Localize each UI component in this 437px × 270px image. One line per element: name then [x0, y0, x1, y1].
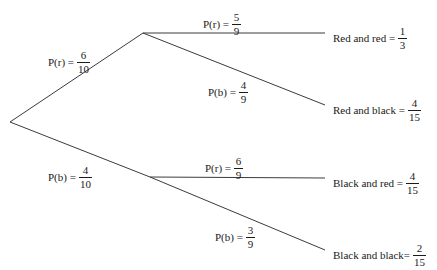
branch-label-black-black: P(b) = 3 9	[215, 225, 255, 250]
fraction-denominator: 10	[79, 179, 92, 190]
fraction-denominator: 9	[247, 239, 255, 250]
outcome-label-red-and-black-text: Red and black =	[333, 105, 405, 116]
fraction-numerator: 1	[399, 26, 407, 37]
outcome-label-black-and-black: Black and black= 2 15	[333, 243, 426, 268]
fraction-numerator: 5	[233, 12, 241, 23]
fraction-denominator: 15	[408, 112, 421, 123]
branch-label-red-red: P(r) = 5 9	[203, 12, 241, 37]
branch-label-black-red-text: P(r) =	[205, 163, 231, 174]
branch-label-black-red: P(r) = 6 9	[205, 156, 243, 181]
fraction-denominator: 9	[235, 170, 243, 181]
branch-label-black-black-text: P(b) =	[215, 232, 243, 243]
fraction-denominator: 9	[233, 26, 241, 37]
outcome-fraction-red-and-black: 4 15	[408, 98, 421, 123]
branch-label-root-black-text: P(b) =	[48, 172, 76, 183]
fraction-numerator: 4	[409, 171, 417, 182]
branch-label-red-black-text: P(b) =	[208, 87, 236, 98]
fraction-numerator: 4	[240, 80, 248, 91]
outcome-label-red-and-red-text: Red and red =	[333, 33, 395, 44]
probability-tree-diagram: P(r) = 6 10 P(b) = 4 10 P(r) = 5 9 P(b) …	[0, 0, 437, 270]
branch-fraction-red-black: 4 9	[239, 80, 248, 105]
branch-fraction-root-black: 4 10	[79, 165, 92, 190]
fraction-denominator: 3	[399, 40, 407, 51]
branch-label-red-black: P(b) = 4 9	[208, 80, 248, 105]
outcome-label-red-and-black: Red and black = 4 15	[333, 98, 421, 123]
outcome-label-black-and-black-text: Black and black=	[333, 250, 410, 261]
fraction-denominator: 15	[413, 257, 426, 268]
outcome-fraction-red-and-red: 1 3	[398, 26, 407, 51]
fraction-denominator: 15	[406, 185, 419, 196]
branch-label-root-red-text: P(r) =	[48, 57, 74, 68]
outcome-fraction-black-and-red: 4 15	[406, 171, 419, 196]
branch-label-root-red: P(r) = 6 10	[48, 50, 90, 75]
branch-fraction-red-red: 5 9	[232, 12, 241, 37]
fraction-numerator: 4	[411, 98, 419, 109]
fraction-numerator: 4	[82, 165, 90, 176]
outcome-label-black-and-red-text: Black and red =	[333, 178, 403, 189]
branch-fraction-black-black: 3 9	[246, 225, 255, 250]
branch-fraction-black-red: 6 9	[234, 156, 243, 181]
fraction-numerator: 6	[235, 156, 243, 167]
fraction-denominator: 10	[77, 64, 90, 75]
outcome-label-black-and-red: Black and red = 4 15	[333, 171, 419, 196]
fraction-numerator: 3	[247, 225, 255, 236]
branch-fraction-root-red: 6 10	[77, 50, 90, 75]
branch-label-red-red-text: P(r) =	[203, 19, 229, 30]
fraction-numerator: 2	[416, 243, 424, 254]
outcome-fraction-black-and-black: 2 15	[413, 243, 426, 268]
branch-label-root-black: P(b) = 4 10	[48, 165, 92, 190]
fraction-denominator: 9	[240, 94, 248, 105]
outcome-label-red-and-red: Red and red = 1 3	[333, 26, 407, 51]
branch-line-root-red	[10, 33, 143, 122]
fraction-numerator: 6	[80, 50, 88, 61]
